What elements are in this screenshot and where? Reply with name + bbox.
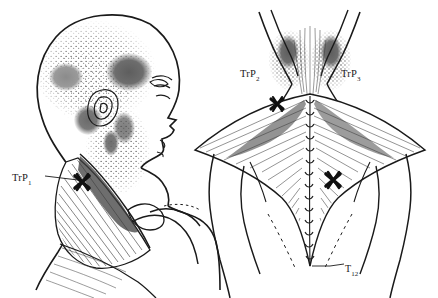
anatomical-artwork [0,0,438,298]
pain-blot-temple [106,53,152,91]
label-trp3-sub: 3 [357,75,361,83]
label-trp1-main: TrP [12,172,28,183]
pain-blot-neck [103,130,119,156]
trigger-point-illustration: TrP1 TrP2 TrP3 T12 [0,0,438,298]
label-trp1-sub: 1 [28,179,32,187]
label-trp3: TrP3 [341,64,360,83]
label-trp3-main: TrP [341,68,357,79]
label-t12-sub: 12 [351,270,358,278]
label-trp1: TrP1 [12,168,31,187]
pain-blot-parietal [49,63,83,91]
label-trp2: TrP2 [240,64,259,83]
label-trp2-main: TrP [240,68,256,79]
label-t12: T12 [345,259,358,278]
label-trp2-sub: 2 [256,75,260,83]
